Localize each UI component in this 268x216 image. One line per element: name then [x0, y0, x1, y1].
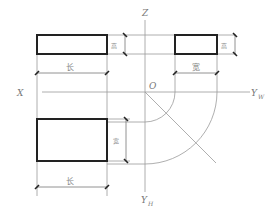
side-width-label: 宽 [192, 62, 200, 72]
origin-label: O [149, 81, 157, 91]
extension-lines [37, 35, 236, 196]
z-axis-label: Z [141, 8, 149, 18]
side-height-label: 高 [221, 42, 227, 50]
front-height-label: 高 [111, 42, 117, 50]
x-axis-label: X [16, 88, 24, 98]
yh-axis-subscript: H [147, 200, 154, 207]
front-length-label: 长 [66, 62, 74, 72]
top-view-rect [37, 119, 107, 161]
top-depth-label: 宽 [113, 137, 119, 145]
side-view-rect [175, 35, 217, 54]
yw-axis-subscript: W [258, 93, 265, 100]
projection-arcs [107, 92, 217, 164]
axes: X Z O Y W Y H [16, 8, 265, 207]
front-view-rect [37, 35, 107, 54]
three-view-diagram: X Z O Y W Y H 长 高 [0, 0, 268, 216]
top-length-label: 长 [66, 176, 74, 186]
diagonal-45-line [145, 92, 216, 163]
yh-axis-label: Y [141, 195, 148, 205]
top-view: 长 宽 [35, 117, 128, 189]
yw-axis-label: Y [251, 88, 258, 98]
